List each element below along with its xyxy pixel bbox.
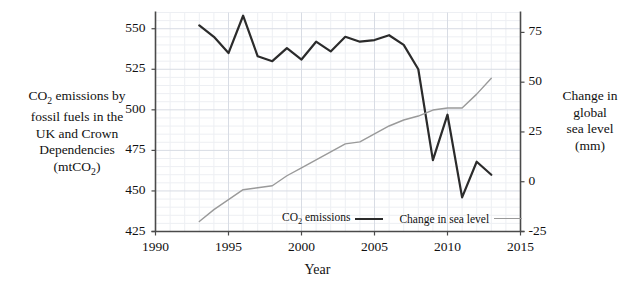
y-tick-right-0: 0 (529, 173, 571, 189)
y-tick-right-50: 50 (529, 73, 571, 89)
legend-label-co2: CO2 emissions (282, 211, 350, 226)
x-axis-title: Year (0, 262, 635, 278)
y-tick-left-475: 475 (104, 141, 146, 157)
x-tick-2015: 2015 (491, 239, 551, 255)
x-tick-2010: 2010 (418, 239, 478, 255)
x-tick-1990: 1990 (126, 239, 186, 255)
legend-swatch-co2 (355, 218, 383, 220)
y-tick-left-500: 500 (104, 101, 146, 117)
legend-swatch-sea (494, 218, 522, 219)
x-tick-1995: 1995 (199, 239, 259, 255)
y-tick-left-450: 450 (104, 182, 146, 198)
y-tick-left-425: 425 (104, 223, 146, 239)
chart-figure: CO2 emissions by fossil fuels in the UK … (0, 0, 635, 293)
chart-legend: CO2 emissions Change in sea level (282, 211, 522, 226)
x-tick-2000: 2000 (272, 239, 332, 255)
y-tick-right-75: 75 (529, 23, 571, 39)
legend-label-sea: Change in sea level (399, 213, 489, 225)
y-tick-right-25: 25 (529, 123, 571, 139)
y-tick-left-550: 550 (104, 20, 146, 36)
legend-entry-co2: CO2 emissions (282, 211, 383, 226)
legend-entry-sea: Change in sea level (399, 213, 522, 225)
x-tick-2005: 2005 (345, 239, 405, 255)
y-tick-left-525: 525 (104, 60, 146, 76)
y-tick-right--25: -25 (529, 223, 571, 239)
tick-marks (152, 29, 525, 236)
